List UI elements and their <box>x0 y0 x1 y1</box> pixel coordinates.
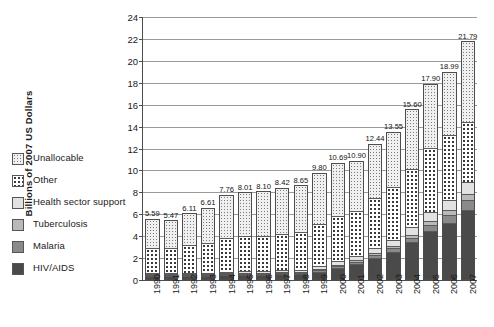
stacked-bar[interactable]: 8.65 <box>294 185 308 280</box>
bar-segment <box>146 249 158 275</box>
bar-segment <box>350 162 362 213</box>
stacked-bar[interactable]: 17.90 <box>423 84 437 280</box>
stacked-bar[interactable]: 5.47 <box>164 220 178 280</box>
bar-segment <box>332 217 344 263</box>
bar-segment <box>220 196 232 239</box>
bar-segment <box>165 249 177 274</box>
y-axis-tick-label: 16 <box>127 99 138 110</box>
bar-value-label: 7.76 <box>219 185 234 194</box>
bar-slot: 10.902001 <box>347 17 366 280</box>
bar-segment <box>350 212 362 257</box>
bar-segment <box>183 246 195 274</box>
bar-slot: 8.101996 <box>254 17 273 280</box>
bar-segment <box>462 211 474 279</box>
bar-segment <box>387 188 399 241</box>
bar-value-label: 13.55 <box>384 122 403 131</box>
y-axis-tick-label: 0 <box>133 275 138 286</box>
bar-segment <box>462 42 474 122</box>
bar-value-label: 18.99 <box>440 62 459 71</box>
stacked-bar[interactable]: 10.90 <box>349 161 363 280</box>
bar-segment <box>313 174 325 226</box>
bar-segment <box>332 164 344 217</box>
y-axis-title: Billions of 2007 US Dollars <box>23 64 34 244</box>
bar-slot: 21.792007 <box>459 17 478 280</box>
bar-slot: 8.651998 <box>292 17 311 280</box>
stacked-bar[interactable]: 12.44 <box>368 144 382 280</box>
bar-segment <box>387 133 399 188</box>
bar-slot: 9.801999 <box>310 17 329 280</box>
stacked-bar[interactable]: 8.42 <box>275 188 289 280</box>
bar-slot: 15.602004 <box>403 17 422 280</box>
stacked-bar[interactable]: 21.79 <box>461 41 475 280</box>
bar-segment <box>239 193 251 237</box>
bar-segment <box>146 220 158 249</box>
bar-segment <box>295 186 307 233</box>
bar-value-label: 10.69 <box>328 153 347 162</box>
y-axis-tick-label: 24 <box>127 12 138 23</box>
bar-segment <box>424 213 436 222</box>
y-axis-tick-label: 10 <box>127 165 138 176</box>
bar-slot: 5.591990 <box>143 17 162 280</box>
bar-value-label: 8.01 <box>238 183 253 192</box>
stacked-bar[interactable]: 8.10 <box>256 191 270 280</box>
bar-segment <box>257 237 269 273</box>
bar-slot: 8.011995 <box>236 17 255 280</box>
y-axis-tick-label: 2 <box>133 253 138 264</box>
stacked-bar[interactable]: 7.76 <box>219 195 233 280</box>
stacked-bar[interactable]: 6.11 <box>182 213 196 280</box>
stacked-bar[interactable]: 13.55 <box>386 132 400 280</box>
bar-segment <box>202 209 214 244</box>
bar-value-label: 21.79 <box>458 32 477 41</box>
stacked-bar[interactable]: 8.01 <box>238 192 252 280</box>
bar-segment <box>369 199 381 249</box>
bar-segment <box>257 192 269 236</box>
bar-segment <box>462 123 474 184</box>
bar-segment <box>424 149 436 213</box>
bar-value-label: 8.10 <box>256 182 271 191</box>
bar-value-label: 8.42 <box>275 178 290 187</box>
bar-segment <box>276 189 288 235</box>
bar-segment <box>462 201 474 210</box>
bar-value-label: 17.90 <box>421 74 440 83</box>
bar-segment <box>443 136 455 201</box>
bar-slot: 18.992006 <box>440 17 459 280</box>
y-axis-tick-label: 4 <box>133 231 138 242</box>
bar-segment <box>443 216 455 224</box>
bar-segment <box>406 170 418 228</box>
stacked-bar[interactable]: 15.60 <box>405 109 419 280</box>
bar-slot: 10.692000 <box>329 17 348 280</box>
bar-value-label: 8.65 <box>293 176 308 185</box>
y-axis-tick-label: 6 <box>133 209 138 220</box>
bar-segment <box>424 85 436 149</box>
bar-slot: 8.421997 <box>273 17 292 280</box>
bar-segment <box>239 237 251 272</box>
bar-slot: 13.552003 <box>384 17 403 280</box>
bar-segment <box>406 110 418 170</box>
chart-canvas: Billions of 2007 US Dollars 024681012141… <box>0 0 494 327</box>
bar-segment <box>183 214 195 246</box>
bar-segment <box>462 183 474 195</box>
bar-segment <box>313 225 325 267</box>
stacked-bar[interactable]: 10.69 <box>331 163 345 280</box>
bar-segment <box>165 221 177 249</box>
bar-slot: 17.902005 <box>421 17 440 280</box>
bar-segment <box>443 201 455 211</box>
x-axis-tick-label: 2007 <box>468 274 478 294</box>
bar-segment <box>406 228 418 236</box>
bar-value-label: 5.47 <box>163 211 178 220</box>
bar-value-label: 5.59 <box>145 209 160 218</box>
bar-value-label: 15.60 <box>403 100 422 109</box>
bar-segment <box>369 145 381 199</box>
bar-value-label: 12.44 <box>366 134 385 143</box>
bar-value-label: 6.11 <box>182 204 196 213</box>
stacked-bar[interactable]: 6.61 <box>201 208 215 280</box>
stacked-bar[interactable]: 18.99 <box>442 72 456 280</box>
stacked-bar[interactable]: 9.80 <box>312 173 326 280</box>
bar-segment <box>295 233 307 271</box>
bar-segment <box>424 232 436 279</box>
chart-figure: UnallocableOtherHealth sector supportTub… <box>0 0 494 327</box>
bar-segment <box>220 239 232 273</box>
bar-segment <box>443 224 455 279</box>
stacked-bar[interactable]: 5.59 <box>145 219 159 280</box>
bar-segment <box>443 73 455 136</box>
